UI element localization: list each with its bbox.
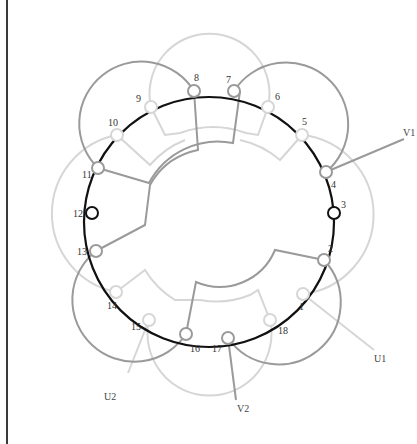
slot-label-13: 13 [77, 246, 87, 257]
terminal-u1-label: U1 [374, 353, 386, 364]
terminal-v2-label: V2 [237, 403, 249, 414]
slot-label-17: 17 [212, 343, 222, 354]
slot-9-node [145, 101, 157, 113]
inner-link-9-6 [151, 107, 268, 135]
slot-label-6: 6 [275, 91, 280, 102]
slot-7-node [228, 85, 240, 97]
slot-13-node [90, 245, 102, 257]
slot-11-node [92, 162, 104, 174]
slot-label-8: 8 [194, 72, 199, 83]
slot-label-10: 10 [108, 117, 118, 128]
slot-16-node [180, 328, 192, 340]
slot-3-node [328, 207, 340, 219]
slot-label-1: 1 [299, 301, 304, 312]
slot-label-3: 3 [341, 199, 346, 210]
slot-8-node [188, 85, 200, 97]
phase-v-coils [72, 62, 404, 400]
slot-6-node [262, 101, 274, 113]
slot-label-14: 14 [107, 300, 117, 311]
slot-label-5: 5 [302, 116, 307, 127]
slot-18-node [264, 314, 276, 326]
slot-label-12: 12 [73, 208, 83, 219]
terminal-u2-label: U2 [104, 391, 116, 402]
phase-u-coils [52, 34, 374, 396]
terminal-v1-label: V1 [403, 127, 415, 138]
slot-label-7: 7 [226, 74, 231, 85]
lead-v1 [326, 139, 404, 172]
inner-link-10 [117, 135, 185, 165]
slot-label-9: 9 [136, 93, 141, 104]
slot-label-2: 2 [328, 243, 333, 254]
slot-4-node [320, 166, 332, 178]
coil-arc-2-17 [228, 260, 341, 364]
slot-label-18: 18 [278, 325, 288, 336]
coil-arc-15-18 [148, 320, 272, 396]
inner-link-5 [240, 135, 302, 160]
slot-1-node [297, 288, 309, 300]
winding-diagram: 1 2 3 4 5 6 7 8 9 10 11 12 13 14 15 16 1… [0, 0, 417, 444]
slot-label-16: 16 [190, 343, 200, 354]
slot-5-node [296, 129, 308, 141]
coil-arc-13-16 [72, 251, 186, 362]
slot-14-node [110, 286, 122, 298]
slot-label-11: 11 [82, 169, 92, 180]
slot-10-node [111, 129, 123, 141]
slot-15-node [143, 314, 155, 326]
slot-labels: 1 2 3 4 5 6 7 8 9 10 11 12 13 14 15 16 1… [73, 72, 346, 354]
coil-arc-7-4 [234, 62, 348, 172]
slot-2-node [318, 254, 330, 266]
slot-label-4: 4 [331, 179, 336, 190]
slot-label-15: 15 [131, 321, 141, 332]
slot-17-node [222, 332, 234, 344]
slot-12-node [86, 207, 98, 219]
